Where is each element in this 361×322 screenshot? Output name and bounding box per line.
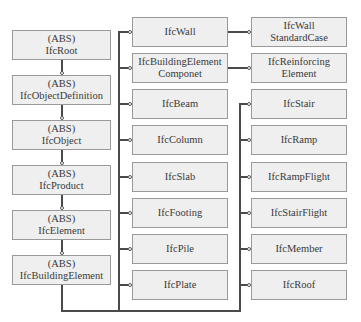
- node-ifcproduct: (ABS) IfcProduct: [12, 165, 111, 195]
- node-ifcstairflight: IfcStairFlight: [251, 198, 347, 228]
- node-ifccolumn: IfcColumn: [132, 125, 228, 155]
- link-line: [228, 67, 248, 69]
- node-label: IfcObjectDefinition: [20, 90, 103, 102]
- node-ifcobjectdefinition: (ABS) IfcObjectDefinition: [12, 75, 111, 105]
- node-label: IfcObject: [42, 135, 82, 147]
- node-label: IfcStairFlight: [271, 207, 328, 219]
- inheritance-circle-icon: [60, 116, 64, 120]
- abstract-tag: (ABS): [48, 123, 75, 135]
- node-label: IfcStair: [283, 98, 315, 110]
- node-label: IfcPlate: [164, 279, 197, 291]
- inheritance-circle-icon: [60, 251, 64, 255]
- node-ifcroot: (ABS) IfcRoot: [12, 30, 111, 60]
- node-label-line2: StandardCase: [270, 32, 328, 44]
- inheritance-circle-icon: [247, 211, 251, 215]
- node-ifcreinforcingelement: IfcReinforcing Element: [251, 53, 347, 83]
- inheritance-circle-icon: [128, 30, 132, 34]
- abstract-tag: (ABS): [48, 168, 75, 180]
- inheritance-circle-icon: [128, 211, 132, 215]
- node-label: IfcWall: [164, 26, 195, 38]
- node-ifcfooting: IfcFooting: [132, 198, 228, 228]
- inheritance-circle-icon: [247, 66, 251, 70]
- node-label: IfcElement: [38, 225, 85, 237]
- node-ifcplate: IfcPlate: [132, 270, 228, 300]
- node-ifcobject: (ABS) IfcObject: [12, 120, 111, 150]
- node-label: IfcBuildingElement: [20, 270, 103, 282]
- node-label: IfcSlab: [165, 171, 195, 183]
- abstract-tag: (ABS): [48, 33, 75, 45]
- middle-bus-line: [118, 31, 120, 311]
- inheritance-circle-icon: [128, 66, 132, 70]
- link-line: [228, 31, 248, 33]
- inheritance-circle-icon: [247, 175, 251, 179]
- node-ifcmember: IfcMember: [251, 234, 347, 264]
- node-label: IfcMember: [275, 243, 322, 255]
- node-label: IfcColumn: [157, 134, 203, 146]
- inheritance-circle-icon: [247, 30, 251, 34]
- trunk-down-line: [61, 285, 63, 311]
- node-label: IfcPile: [166, 243, 194, 255]
- node-label: IfcFooting: [158, 207, 202, 219]
- node-ifcbeam: IfcBeam: [132, 89, 228, 119]
- node-ifcbuildingelementcomponent: IfcBuildingElement Componet: [132, 53, 228, 83]
- node-ifcslab: IfcSlab: [132, 162, 228, 192]
- node-label: IfcWall: [283, 20, 314, 32]
- node-label-line2: Componet: [158, 68, 202, 80]
- node-label: IfcBeam: [162, 98, 198, 110]
- inheritance-circle-icon: [128, 247, 132, 251]
- inheritance-circle-icon: [247, 138, 251, 142]
- right-bus-line: [239, 104, 241, 311]
- node-ifcbuildingelement: (ABS) IfcBuildingElement: [12, 255, 111, 285]
- node-label: IfcRampFlight: [268, 171, 330, 183]
- node-label-line2: Element: [282, 68, 317, 80]
- node-ifcroof: IfcRoof: [251, 270, 347, 300]
- inheritance-circle-icon: [247, 283, 251, 287]
- node-label: IfcProduct: [39, 180, 83, 192]
- abstract-tag: (ABS): [48, 78, 75, 90]
- abstract-tag: (ABS): [48, 258, 75, 270]
- node-ifcelement: (ABS) IfcElement: [12, 210, 111, 240]
- inheritance-circle-icon: [247, 247, 251, 251]
- abstract-tag: (ABS): [48, 213, 75, 225]
- node-label: IfcRoof: [283, 279, 316, 291]
- inheritance-circle-icon: [60, 161, 64, 165]
- inheritance-circle-icon: [128, 283, 132, 287]
- inheritance-circle-icon: [128, 102, 132, 106]
- node-label: IfcReinforcing: [268, 56, 330, 68]
- node-label: IfcRamp: [281, 134, 318, 146]
- node-ifcwall: IfcWall: [132, 17, 228, 47]
- node-ifcpile: IfcPile: [132, 234, 228, 264]
- node-ifcstair: IfcStair: [251, 89, 347, 119]
- node-ifcrampflight: IfcRampFlight: [251, 162, 347, 192]
- inheritance-circle-icon: [247, 102, 251, 106]
- node-ifcramp: IfcRamp: [251, 125, 347, 155]
- node-ifcwallstandardcase: IfcWall StandardCase: [251, 17, 347, 47]
- node-label: IfcRoot: [45, 45, 77, 57]
- inheritance-circle-icon: [60, 71, 64, 75]
- inheritance-circle-icon: [128, 138, 132, 142]
- node-label: IfcBuildingElement: [138, 56, 221, 68]
- inheritance-circle-icon: [128, 175, 132, 179]
- inheritance-circle-icon: [60, 206, 64, 210]
- trunk-bottom-line: [61, 310, 241, 312]
